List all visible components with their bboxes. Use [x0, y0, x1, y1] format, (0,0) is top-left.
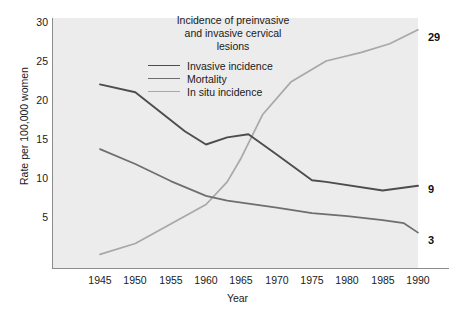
line-mortality	[100, 149, 418, 233]
series-lines	[0, 0, 475, 313]
end-label-invasive: 9	[428, 183, 434, 195]
line-invasive-incidence	[100, 84, 418, 190]
end-label-mortality: 3	[428, 234, 434, 246]
chart-figure: 30 25 20 15 10 5 1945 1950 1955 1960 196…	[0, 0, 475, 313]
end-label-in-situ: 29	[428, 31, 440, 43]
